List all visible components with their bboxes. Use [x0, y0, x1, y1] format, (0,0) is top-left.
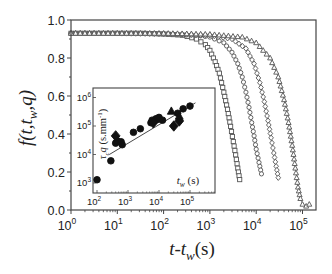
data-point — [233, 148, 237, 152]
data-point — [217, 32, 222, 37]
x-tick-label: 103 — [197, 216, 216, 233]
data-point — [252, 134, 256, 138]
x-tick-label: 105 — [289, 216, 308, 233]
y-axis-label: f(t,tw,q) — [15, 90, 40, 146]
data-point — [137, 125, 144, 132]
data-point — [108, 158, 115, 165]
data-point — [307, 202, 312, 207]
chart-svg: 0.00.20.40.60.81.0100101102103104105 102… — [0, 0, 332, 274]
data-point — [250, 125, 254, 129]
x-tick-label: 101 — [104, 216, 123, 233]
data-point — [276, 74, 281, 79]
data-point — [228, 120, 232, 124]
inset-y-tick-label: 105 — [77, 119, 92, 131]
data-point — [119, 141, 126, 148]
inset-x-tick-label: 103 — [118, 195, 133, 207]
data-point — [295, 184, 300, 189]
data-point — [234, 157, 238, 161]
data-point — [219, 81, 223, 85]
data-point — [243, 85, 247, 89]
data-point — [247, 105, 251, 109]
inset-y-tick-label: 106 — [77, 91, 92, 103]
data-point — [292, 161, 297, 166]
data-point — [272, 65, 277, 70]
data-point — [290, 147, 295, 152]
data-point — [224, 103, 228, 107]
data-point — [279, 88, 284, 93]
data-point — [290, 143, 295, 148]
data-point — [226, 111, 230, 115]
data-point — [273, 159, 278, 164]
data-point — [229, 124, 233, 128]
data-point — [240, 75, 244, 79]
data-point — [161, 31, 166, 36]
data-point — [225, 107, 229, 111]
data-point — [249, 115, 253, 119]
data-point — [227, 116, 231, 120]
inset-x-tick-label: 104 — [149, 195, 164, 207]
data-point — [180, 31, 185, 36]
data-point — [218, 76, 222, 80]
data-point — [253, 143, 257, 147]
data-point — [241, 80, 245, 84]
data-point — [184, 31, 189, 36]
data-point — [293, 165, 298, 170]
data-point — [271, 145, 276, 150]
data-point — [248, 110, 252, 114]
data-point — [270, 60, 275, 65]
data-point — [187, 103, 194, 110]
data-point — [239, 70, 243, 74]
x-tick-label: 100 — [58, 216, 77, 233]
data-point — [232, 144, 236, 148]
y-tick-label: 0.8 — [48, 52, 65, 66]
x-tick-label: 102 — [150, 216, 169, 233]
data-point — [230, 34, 235, 39]
data-point — [265, 113, 270, 118]
data-point — [250, 121, 254, 125]
data-point — [237, 66, 241, 70]
inset-x-tick-label: 105 — [180, 195, 195, 207]
data-point — [199, 40, 203, 44]
data-point — [253, 138, 257, 142]
data-point — [251, 129, 255, 133]
y-tick-label: 0.0 — [48, 204, 65, 218]
data-point — [293, 170, 298, 175]
data-point — [221, 85, 225, 89]
data-point — [259, 172, 263, 176]
data-point — [249, 38, 254, 43]
data-point — [221, 33, 226, 38]
data-point — [222, 90, 226, 94]
data-point — [166, 31, 171, 36]
data-point — [212, 32, 217, 37]
data-point — [193, 31, 198, 36]
data-point — [274, 70, 279, 75]
data-point — [231, 140, 235, 144]
data-point — [130, 129, 137, 136]
data-point — [271, 150, 276, 155]
y-tick-label: 1.0 — [48, 14, 65, 28]
data-point — [234, 153, 238, 157]
data-point — [159, 117, 166, 124]
data-point — [217, 71, 221, 75]
data-point — [255, 152, 259, 156]
data-point — [254, 40, 259, 45]
data-point — [291, 152, 296, 157]
data-point — [264, 108, 269, 113]
data-point — [224, 99, 228, 103]
data-point — [289, 138, 294, 143]
data-point — [277, 79, 282, 84]
data-point — [180, 106, 187, 113]
data-point — [238, 178, 242, 182]
data-point — [284, 111, 289, 116]
data-point — [175, 31, 180, 36]
y-tick-label: 0.4 — [48, 128, 65, 142]
data-point — [270, 140, 275, 145]
data-point — [236, 62, 240, 66]
data-point — [244, 90, 248, 94]
data-point — [254, 147, 258, 151]
data-point — [286, 120, 291, 125]
data-point — [240, 34, 245, 39]
data-point — [287, 124, 292, 129]
data-point — [288, 134, 293, 139]
x-tick-label: 104 — [243, 216, 262, 233]
